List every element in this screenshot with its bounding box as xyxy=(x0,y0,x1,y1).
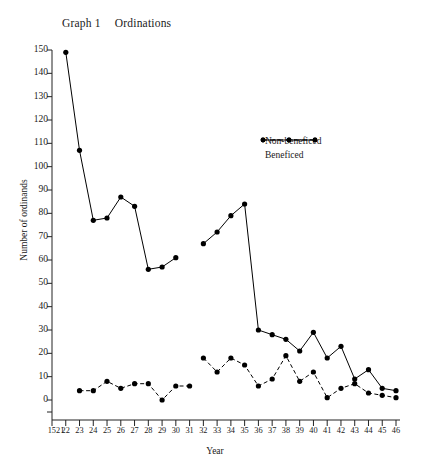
series-point-0 xyxy=(132,204,137,209)
series-point-0 xyxy=(173,255,178,260)
series-point-0 xyxy=(283,337,288,342)
series-point-0 xyxy=(160,264,165,269)
series-point-1 xyxy=(104,379,109,384)
series-point-1 xyxy=(338,386,343,391)
series-point-1 xyxy=(352,381,357,386)
legend-label-beneficed: Beneficed xyxy=(265,150,304,160)
series-point-1 xyxy=(201,355,206,360)
series-point-0 xyxy=(256,327,261,332)
series-line-0 xyxy=(203,204,396,391)
series-point-0 xyxy=(338,344,343,349)
series-point-1 xyxy=(311,369,316,374)
series-point-0 xyxy=(201,241,206,246)
series-point-1 xyxy=(118,386,123,391)
series-point-1 xyxy=(77,388,82,393)
series-point-0 xyxy=(393,388,398,393)
series-point-0 xyxy=(297,348,302,353)
series-point-0 xyxy=(118,194,123,199)
plot-area xyxy=(0,0,430,475)
series-point-0 xyxy=(270,332,275,337)
legend-swatch-dashed-line-icon xyxy=(258,134,320,146)
series-point-1 xyxy=(366,390,371,395)
series-point-1 xyxy=(325,395,330,400)
chart-figure: Graph 1Ordinations Number of ordinands Y… xyxy=(0,0,430,475)
series-point-1 xyxy=(270,376,275,381)
series-point-0 xyxy=(228,213,233,218)
series-point-1 xyxy=(242,362,247,367)
chart-legend: Non-beneficed Beneficed xyxy=(258,134,321,162)
series-point-1 xyxy=(228,355,233,360)
series-point-0 xyxy=(104,215,109,220)
series-point-1 xyxy=(297,379,302,384)
series-point-0 xyxy=(215,229,220,234)
series-point-0 xyxy=(366,367,371,372)
series-point-1 xyxy=(91,388,96,393)
series-point-1 xyxy=(173,383,178,388)
series-point-0 xyxy=(63,50,68,55)
series-point-0 xyxy=(146,267,151,272)
series-point-1 xyxy=(132,381,137,386)
series-point-0 xyxy=(325,355,330,360)
series-point-1 xyxy=(256,383,261,388)
series-line-0 xyxy=(66,52,176,269)
series-point-0 xyxy=(380,386,385,391)
series-point-1 xyxy=(393,395,398,400)
series-point-1 xyxy=(380,393,385,398)
series-point-0 xyxy=(77,148,82,153)
series-point-0 xyxy=(352,376,357,381)
series-point-0 xyxy=(242,201,247,206)
legend-item-beneficed: Beneficed xyxy=(258,148,321,162)
series-point-1 xyxy=(187,383,192,388)
series-point-0 xyxy=(91,218,96,223)
series-point-1 xyxy=(160,397,165,402)
series-point-1 xyxy=(146,381,151,386)
series-point-1 xyxy=(215,369,220,374)
series-point-0 xyxy=(311,330,316,335)
series-point-1 xyxy=(283,353,288,358)
